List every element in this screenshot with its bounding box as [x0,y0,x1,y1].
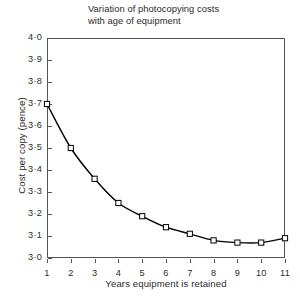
x-tick-label: 11 [275,268,295,278]
x-tick-mark [214,259,215,263]
x-tick-mark [95,259,96,263]
y-tick-mark [48,214,52,215]
x-tick-label: 6 [156,268,176,278]
y-tick-label: 3·1 [20,230,42,240]
x-tick-label: 1 [37,268,57,278]
x-tick-label: 7 [180,268,200,278]
y-tick-label: 3·2 [20,208,42,218]
y-tick-label: 3·9 [20,54,42,64]
y-tick-mark [48,60,52,61]
x-axis-label: Years equipment is retained [47,278,285,289]
x-tick-label: 8 [204,268,224,278]
x-tick-label: 4 [108,268,128,278]
plot-area [47,38,285,258]
y-tick-label: 3·7 [20,98,42,108]
y-tick-mark [48,104,52,105]
y-tick-mark [48,170,52,171]
x-tick-mark [261,259,262,263]
chart-figure: Variation of photocopying costs with age… [0,0,300,299]
y-tick-label: 3·3 [20,186,42,196]
x-tick-mark [118,259,119,263]
x-tick-label: 2 [61,268,81,278]
x-tick-mark [71,259,72,263]
y-tick-label: 3·8 [20,76,42,86]
x-tick-mark [237,259,238,263]
y-tick-mark [48,236,52,237]
x-tick-mark [285,259,286,263]
x-tick-mark [166,259,167,263]
x-tick-mark [142,259,143,263]
y-tick-mark [48,38,52,39]
y-tick-label: 3·5 [20,142,42,152]
y-tick-mark [48,258,52,259]
x-tick-label: 10 [251,268,271,278]
x-tick-label: 5 [132,268,152,278]
y-tick-mark [48,192,52,193]
y-tick-mark [48,82,52,83]
x-tick-label: 9 [227,268,247,278]
y-tick-label: 3·0 [20,252,42,262]
y-tick-label: 3·6 [20,120,42,130]
x-tick-mark [190,259,191,263]
y-tick-label: 3·4 [20,164,42,174]
x-tick-mark [47,259,48,263]
y-tick-mark [48,148,52,149]
y-tick-label: 4·0 [20,32,42,42]
x-tick-label: 3 [85,268,105,278]
chart-title: Variation of photocopying costs with age… [88,3,288,26]
y-tick-mark [48,126,52,127]
